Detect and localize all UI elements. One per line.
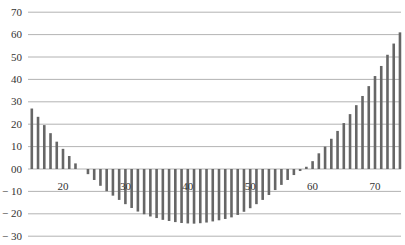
bar [99, 169, 102, 186]
bar [37, 117, 40, 169]
bar [349, 114, 352, 169]
y-tick-label: 60 [11, 28, 23, 40]
y-tick-label: 70 [11, 6, 23, 18]
bar [87, 169, 90, 174]
bar [293, 169, 296, 175]
bar [261, 169, 264, 200]
bar [361, 96, 364, 169]
bar [162, 169, 165, 220]
bar [62, 149, 65, 169]
bar [137, 169, 140, 212]
bar [367, 86, 370, 169]
bar [55, 142, 58, 169]
y-tick-label: 50 [11, 51, 23, 63]
bar [224, 169, 227, 219]
bar [149, 169, 152, 216]
bar [299, 169, 302, 171]
x-tick-label: 50 [245, 180, 257, 192]
y-tick-label: − 10 [2, 185, 22, 197]
bar [399, 32, 402, 169]
bar [31, 109, 34, 169]
bar [324, 147, 327, 169]
bar [174, 169, 177, 222]
bar [43, 125, 46, 169]
bar [105, 169, 108, 191]
bar [355, 105, 358, 169]
x-tick-label: 70 [370, 180, 382, 192]
bar [143, 169, 146, 214]
bar [205, 169, 208, 223]
bar [318, 153, 321, 169]
bar [336, 131, 339, 169]
y-tick-label: − 30 [2, 230, 22, 242]
y-tick-label: 20 [11, 118, 23, 130]
bar [343, 123, 346, 169]
bar [305, 167, 308, 169]
bar [380, 66, 383, 169]
y-tick-label: 30 [11, 95, 23, 107]
bar [230, 169, 233, 217]
bar-chart: 7060504030201000− 10− 20− 30 20304050607… [0, 0, 405, 245]
x-tick-label: 20 [58, 180, 70, 192]
bar [330, 139, 333, 169]
bar [193, 169, 196, 224]
bar [68, 156, 71, 169]
bar [386, 55, 389, 169]
bar [211, 169, 214, 221]
bar [218, 169, 221, 220]
bar [286, 169, 289, 180]
bar [168, 169, 171, 221]
bar [49, 133, 52, 169]
bar [155, 169, 158, 218]
bar [311, 161, 314, 169]
bar [180, 169, 183, 223]
bar [374, 76, 377, 169]
y-tick-label: − 20 [2, 207, 22, 219]
y-tick-label: 10 [11, 140, 23, 152]
bar [280, 169, 283, 185]
y-tick-label: 40 [11, 73, 23, 85]
bar [112, 169, 115, 196]
bars [31, 32, 402, 223]
bar [74, 163, 77, 169]
bar [199, 169, 202, 223]
bar [274, 169, 277, 190]
x-tick-label: 60 [307, 180, 319, 192]
y-tick-label: 00 [11, 163, 23, 175]
x-tick-label: 40 [182, 180, 194, 192]
bar [93, 169, 96, 180]
bar [268, 169, 271, 195]
x-tick-label: 30 [120, 180, 132, 192]
bar [236, 169, 239, 215]
y-axis-labels: 7060504030201000− 10− 20− 30 [2, 6, 22, 242]
bar [187, 169, 190, 223]
bar [392, 44, 395, 169]
